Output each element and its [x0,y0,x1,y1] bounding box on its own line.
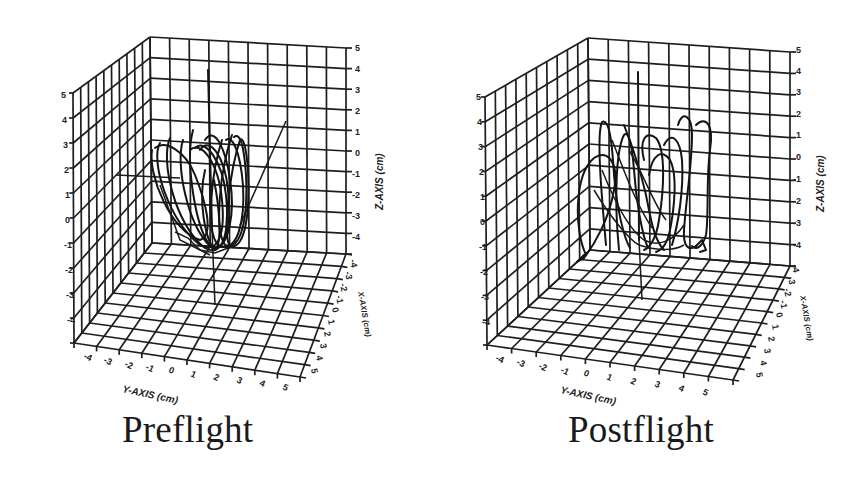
left-tick: 0 [65,215,70,225]
z-tick: 0 [355,148,360,158]
y-tick: -2 [123,359,134,371]
y-tick: 1 [189,369,198,380]
y-tick: 4 [677,383,686,394]
z-tick: 0 [796,152,801,162]
y-tick: -4 [82,351,93,363]
z-tick: 2 [355,106,360,116]
z-tick: -4 [793,240,801,250]
preflight-x-tick-labels: -4 -3 -2 -1 0 1 2 3 4 5 X-AXIS (cm) [309,259,373,375]
x-tick: 2 [322,331,333,338]
z-tick: 1 [355,127,360,137]
left-tick: 5 [61,90,66,100]
z-tick: 5 [355,43,360,53]
z-tick: -4 [352,232,360,242]
x-tick: 0 [330,307,341,314]
left-tick: 3 [63,140,68,150]
x-tick: -2 [782,288,793,298]
y-tick: 1 [605,372,614,383]
postflight-z-tick-labels: 5 4 3 2 1 0 -1 -2 -3 -4 Z-AXIS (cm) [793,45,826,250]
left-tick: -2 [65,265,73,275]
y-axis-title: Y-AXIS (cm) [122,383,180,406]
z-tick: 5 [796,45,801,55]
y-tick: -1 [144,362,155,374]
x-tick: -2 [338,283,349,293]
left-tick: 4 [62,115,67,125]
y-axis-title: Y-AXIS (cm) [560,384,618,407]
z-axis-title: Z-AXIS (cm) [815,155,826,213]
y-tick: 3 [235,375,244,386]
x-tick: 4 [314,355,325,362]
y-tick: -2 [537,361,548,373]
postflight-caption: Postflight [568,408,714,451]
x-tick: -1 [334,295,345,305]
y-tick: 2 [629,376,638,387]
left-tick: 2 [479,167,484,177]
x-tick: 1 [326,319,337,326]
z-tick: -1 [793,174,801,184]
preflight-z-tick-labels: 5 4 3 2 1 0 -1 -2 -3 -4 Z-AXIS (cm) [352,43,385,242]
z-tick: 4 [355,64,360,74]
x-tick: 1 [770,324,781,331]
left-tick: -3 [66,290,74,300]
x-tick: -4 [348,259,359,269]
left-tick: -2 [480,267,488,277]
z-tick: -2 [352,190,360,200]
y-tick: 3 [653,379,662,390]
y-tick: 5 [281,382,290,393]
left-tick: 1 [480,192,485,202]
left-tick: 2 [64,165,69,175]
x-tick: -3 [343,271,354,281]
x-tick: 3 [318,343,329,350]
y-tick: 0 [167,365,176,376]
z-tick: 2 [796,109,801,119]
z-tick: 3 [355,85,360,95]
z-tick: -2 [793,196,801,206]
y-tick: -3 [515,357,526,369]
left-tick: -3 [481,292,489,302]
y-tick: 4 [258,378,267,389]
left-tick: 3 [478,142,483,152]
x-tick: 2 [766,336,777,343]
y-tick: 0 [582,368,591,379]
z-tick: 3 [796,87,801,97]
x-tick: -1 [778,300,789,310]
z-tick: -3 [352,211,360,221]
y-tick: -4 [494,353,505,365]
left-tick: -4 [67,315,75,325]
x-tick: 4 [758,360,769,367]
left-tick: 0 [480,217,485,227]
x-axis-title: X-AXIS (cm) [356,290,373,338]
z-tick: -3 [793,218,801,228]
x-tick: -3 [786,276,797,286]
left-tick: 4 [477,117,482,127]
z-tick: 1 [796,130,801,140]
x-tick: 3 [762,348,773,355]
x-tick: -4 [790,264,801,274]
left-tick: 5 [476,92,481,102]
x-tick: 5 [754,372,765,379]
z-axis-title: Z-AXIS (cm) [374,153,385,211]
y-tick: 2 [212,372,221,383]
y-tick: -1 [559,365,570,377]
left-tick: 1 [65,190,70,200]
left-tick: -1 [64,240,72,250]
preflight-caption: Preflight [122,408,253,451]
left-tick: -1 [479,242,487,252]
x-axis-title: X-AXIS (cm) [798,294,815,342]
z-tick: -1 [352,169,360,179]
x-tick: 0 [774,312,785,319]
y-tick: -3 [102,355,113,367]
postflight-left-wall-tick-labels: 5 4 3 2 1 0 -1 -2 -3 -4 [476,92,490,327]
y-tick: 5 [701,387,710,398]
z-tick: 4 [796,66,801,76]
x-tick: 5 [309,368,320,375]
left-tick: -4 [482,317,490,327]
